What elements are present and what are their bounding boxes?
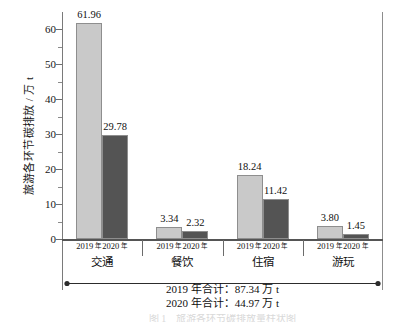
bar-value-label: 18.24 [226,162,274,173]
bar [343,234,369,239]
bar-value-label: 11.42 [252,186,300,197]
x-group-label: 住宿 [223,257,303,269]
x-axis-tick-band: 2019 年2020 年2019 年2020 年2019 年2020 年2019… [62,240,383,256]
y-tick-label: 20 [16,164,56,175]
y-tick-label: 10 [16,199,56,210]
figure-caption-cut: 图 1 旅游各环节碳排放量柱状图 [62,314,383,322]
group-separator [142,240,143,256]
x-group-label: 交通 [62,257,142,269]
bar [156,227,182,239]
x-tick-year-label: 2020 年 [93,242,137,251]
x-axis-group-band: 交通餐饮住宿游玩 [62,256,383,273]
chart-figure: 旅游各环节碳排放 / 万 t 0102030405060 61.9629.783… [0,0,399,324]
y-tick-label: 50 [16,59,56,70]
bar [182,231,208,239]
bar-value-label: 61.96 [65,10,113,21]
y-tick-label: 0 [16,234,56,245]
total-2020: 2020 年合计：44.97 万 t [62,297,383,311]
x-tick-year-label: 2020 年 [254,242,298,251]
bar-value-label: 2.32 [171,218,219,229]
span-arrow [62,274,383,283]
plot-area: 61.9629.783.342.3218.2411.423.801.45 [62,12,383,239]
y-tick-label: 40 [16,94,56,105]
y-tick-label: 30 [16,129,56,140]
bar [237,175,263,239]
bar-value-label: 29.78 [91,122,139,133]
x-tick-year-label: 2020 年 [334,242,378,251]
x-group-label: 餐饮 [142,257,222,269]
total-2019: 2019 年合计：87.34 万 t [62,283,383,297]
group-separator [303,240,304,256]
x-group-label: 游玩 [303,257,383,269]
bar [263,199,289,239]
group-separator [223,240,224,256]
totals-block: 2019 年合计：87.34 万 t 2020 年合计：44.97 万 t [62,283,383,310]
bar [102,135,128,239]
bar-value-label: 1.45 [332,221,380,232]
y-tick-label: 60 [16,24,56,35]
x-tick-year-label: 2020 年 [173,242,217,251]
